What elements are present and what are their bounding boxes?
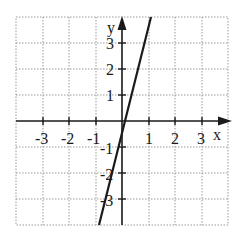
x-tick-label: 3 (197, 130, 205, 147)
x-tick-label: -2 (61, 130, 74, 147)
y-tick-label: -3 (100, 192, 113, 209)
y-tick-label: -1 (100, 140, 113, 157)
x-tick-label: -1 (87, 130, 100, 147)
x-tick-label: -3 (35, 130, 48, 147)
x-axis-label: x (213, 126, 221, 143)
axes (16, 22, 224, 225)
y-tick-label: 2 (106, 61, 114, 78)
x-tick-label: 1 (145, 130, 153, 147)
x-axis-arrow-icon (218, 117, 232, 126)
coordinate-plane: x y -3 -2 -1 1 2 3 3 2 1 -1 -2 -3 (0, 0, 238, 235)
y-axis-arrow-icon (118, 16, 127, 30)
y-tick-label: -2 (100, 166, 113, 183)
y-tick-label: 1 (106, 87, 114, 104)
graph-figure: x y -3 -2 -1 1 2 3 3 2 1 -1 -2 -3 (0, 0, 238, 235)
x-tick-label: 2 (171, 130, 179, 147)
y-tick-label: 3 (106, 35, 114, 52)
